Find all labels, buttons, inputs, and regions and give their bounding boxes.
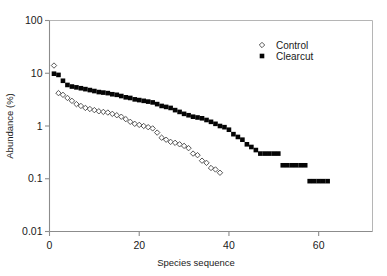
point-clearcut-28: [177, 110, 182, 115]
point-clearcut-26: [168, 106, 173, 111]
point-clearcut-24: [159, 104, 164, 109]
point-control-9: [92, 107, 97, 112]
x-tick-label-3: 60: [313, 239, 325, 251]
point-clearcut-48: [267, 151, 272, 156]
point-clearcut-53: [289, 163, 294, 168]
point-clearcut-9: [92, 89, 97, 94]
point-clearcut-43: [245, 142, 250, 147]
point-clearcut-3: [65, 83, 70, 88]
point-clearcut-36: [213, 122, 218, 127]
point-clearcut-40: [231, 132, 236, 137]
x-tick-label-1: 20: [133, 239, 145, 251]
point-clearcut-55: [298, 163, 303, 168]
point-clearcut-11: [101, 90, 106, 95]
x-tick-label-0: 0: [47, 239, 53, 251]
chart-figure: 0.010.11101000204060Species sequenceAbun…: [0, 0, 387, 276]
point-control-8: [87, 106, 92, 111]
point-control-0: [51, 63, 56, 68]
point-clearcut-27: [173, 108, 178, 113]
y-tick-label-4: 100: [25, 14, 43, 26]
legend-label-control: Control: [276, 40, 308, 51]
point-control-4: [69, 98, 74, 103]
point-clearcut-50: [276, 151, 281, 156]
legend-marker-control: [259, 42, 264, 47]
point-clearcut-21: [146, 99, 151, 104]
point-control-20: [141, 123, 146, 128]
point-clearcut-33: [200, 116, 205, 121]
point-clearcut-7: [83, 87, 88, 92]
point-clearcut-60: [321, 179, 326, 184]
point-clearcut-17: [128, 96, 133, 101]
x-axis-title: Species sequence: [157, 257, 235, 268]
point-clearcut-0: [52, 71, 57, 76]
point-clearcut-46: [258, 151, 263, 156]
x-tick-label-2: 40: [223, 239, 235, 251]
point-clearcut-54: [294, 163, 299, 168]
point-clearcut-6: [79, 86, 84, 91]
y-tick-label-1: 0.1: [28, 172, 43, 184]
point-clearcut-42: [240, 137, 245, 142]
point-control-37: [217, 170, 222, 175]
point-clearcut-25: [164, 105, 169, 110]
point-clearcut-58: [312, 179, 317, 184]
point-clearcut-41: [236, 135, 241, 140]
point-clearcut-47: [263, 151, 268, 156]
point-clearcut-49: [272, 151, 277, 156]
point-clearcut-45: [254, 148, 259, 153]
point-clearcut-1: [56, 73, 61, 78]
point-clearcut-31: [191, 114, 196, 119]
point-clearcut-29: [182, 112, 187, 117]
point-clearcut-14: [114, 93, 119, 98]
point-clearcut-37: [218, 124, 223, 129]
point-clearcut-20: [141, 99, 146, 104]
legend-marker-clearcut: [260, 54, 265, 59]
point-clearcut-39: [227, 127, 232, 132]
legend-label-clearcut: Clearcut: [276, 51, 313, 62]
point-clearcut-2: [61, 78, 66, 83]
point-clearcut-59: [316, 179, 321, 184]
point-clearcut-5: [74, 85, 79, 90]
point-clearcut-51: [280, 163, 285, 168]
point-clearcut-16: [123, 95, 128, 100]
point-clearcut-4: [70, 84, 75, 89]
point-clearcut-8: [88, 88, 93, 93]
point-clearcut-34: [204, 118, 209, 123]
point-clearcut-32: [195, 115, 200, 120]
point-control-23: [154, 130, 159, 135]
point-clearcut-30: [186, 113, 191, 118]
point-clearcut-23: [155, 102, 160, 107]
point-clearcut-15: [119, 94, 124, 99]
point-clearcut-35: [209, 120, 214, 125]
y-tick-label-2: 1: [37, 120, 43, 132]
point-clearcut-57: [307, 179, 312, 184]
point-clearcut-44: [249, 145, 254, 150]
y-tick-label-0: 0.01: [22, 225, 43, 237]
point-clearcut-10: [97, 90, 102, 95]
point-clearcut-19: [137, 98, 142, 103]
y-tick-label-3: 10: [31, 67, 43, 79]
point-clearcut-61: [325, 179, 330, 184]
point-clearcut-13: [110, 92, 115, 97]
y-axis-title: Abundance (%): [4, 93, 15, 158]
point-clearcut-12: [106, 91, 111, 96]
point-control-19: [137, 122, 142, 127]
point-clearcut-56: [303, 163, 308, 168]
point-clearcut-22: [150, 100, 155, 105]
point-clearcut-18: [132, 97, 137, 102]
point-clearcut-38: [222, 125, 227, 130]
point-clearcut-52: [285, 163, 290, 168]
point-control-3: [65, 95, 70, 100]
chart-canvas: 0.010.11101000204060Species sequenceAbun…: [0, 0, 387, 276]
